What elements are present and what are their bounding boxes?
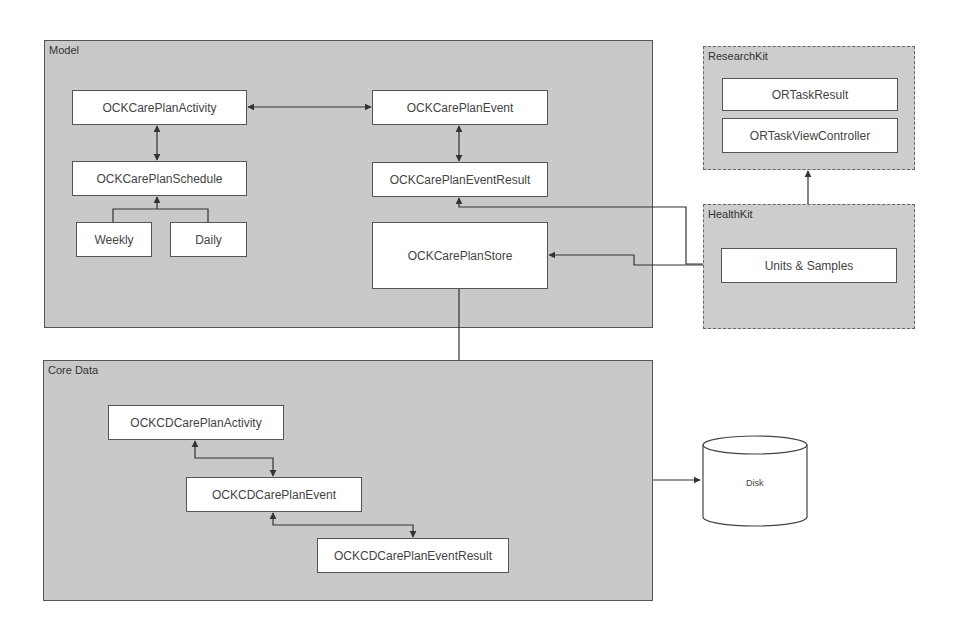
ockcd-care-plan-event-node: OCKCDCarePlanEvent	[186, 477, 362, 512]
disk-label: Disk	[746, 478, 764, 488]
ock-care-plan-event-node: OCKCarePlanEvent	[372, 90, 548, 125]
core-data-group-label: Core Data	[48, 364, 98, 376]
ockcd-care-plan-activity-node: OCKCDCarePlanActivity	[108, 405, 284, 440]
model-group-label: Model	[49, 44, 79, 56]
or-task-view-controller-node: ORTaskViewController	[722, 118, 898, 153]
units-samples-node: Units & Samples	[721, 248, 897, 283]
weekly-node: Weekly	[76, 222, 152, 257]
or-task-result-node: ORTaskResult	[722, 78, 898, 111]
daily-node: Daily	[170, 222, 247, 257]
ock-care-plan-activity-node: OCKCarePlanActivity	[72, 90, 247, 125]
ock-care-plan-store-node: OCKCarePlanStore	[372, 222, 548, 289]
healthkit-group-label: HealthKit	[708, 208, 753, 220]
ockcd-care-plan-event-result-node: OCKCDCarePlanEventResult	[317, 538, 509, 573]
ock-care-plan-schedule-node: OCKCarePlanSchedule	[72, 161, 247, 196]
researchkit-group-label: ResearchKit	[708, 50, 768, 62]
ock-care-plan-event-result-node: OCKCarePlanEventResult	[372, 162, 548, 197]
